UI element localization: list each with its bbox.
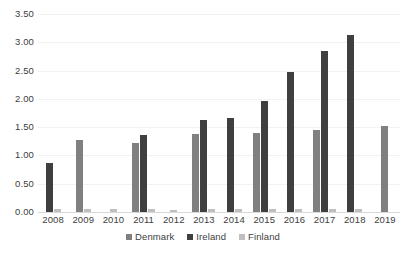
bar-group (310, 14, 340, 212)
x-axis-tick-label: 2019 (374, 213, 396, 227)
legend-label: Denmark (135, 232, 174, 242)
y-axis-tick-label: 3.00 (15, 38, 34, 48)
legend-label: Ireland (196, 232, 226, 242)
bar[interactable] (235, 209, 242, 212)
y-axis: 3.503.002.502.001.501.000.500.00 (0, 14, 34, 212)
bar[interactable] (132, 143, 139, 212)
y-axis-tick-label: 1.50 (15, 122, 34, 132)
x-axis-tick-label: 2018 (344, 213, 366, 227)
bar-group (98, 14, 128, 212)
legend-swatch-icon (187, 234, 193, 240)
bar-group (189, 14, 219, 212)
x-axis-tick-label: 2011 (133, 213, 154, 227)
legend-item-denmark[interactable]: Denmark (126, 232, 174, 242)
x-axis-tick-label: 2015 (253, 213, 275, 227)
x-axis-tick-label: 2013 (193, 213, 215, 227)
bar[interactable] (355, 209, 362, 212)
y-axis-tick-label: 0.50 (15, 179, 34, 189)
legend-item-ireland[interactable]: Ireland (187, 232, 226, 242)
legend-swatch-icon (239, 234, 245, 240)
bar[interactable] (148, 209, 155, 212)
bar-group (249, 14, 279, 212)
bar[interactable] (253, 133, 260, 212)
bar[interactable] (140, 135, 147, 213)
bar[interactable] (321, 51, 328, 212)
bar[interactable] (287, 72, 294, 212)
x-axis-tick-label: 2009 (72, 213, 94, 227)
bar-group (129, 14, 159, 212)
bar-group (340, 14, 370, 212)
bar[interactable] (84, 209, 91, 212)
bar-group (219, 14, 249, 212)
bar[interactable] (170, 210, 177, 212)
y-axis-tick-label: 0.00 (15, 207, 34, 217)
bar-group (279, 14, 309, 212)
bar[interactable] (347, 35, 354, 212)
bar[interactable] (261, 101, 268, 212)
y-axis-tick-label: 2.00 (15, 94, 34, 104)
x-axis-tick-label: 2010 (103, 213, 125, 227)
bar[interactable] (200, 120, 207, 212)
x-axis-tick-label: 2012 (163, 213, 185, 227)
y-axis-tick-label: 1.00 (15, 151, 34, 161)
bar-group (370, 14, 400, 212)
bar-group (68, 14, 98, 212)
x-axis-tick-label: 2017 (314, 213, 336, 227)
bar-group (38, 14, 68, 212)
legend-swatch-icon (126, 234, 132, 240)
bar[interactable] (313, 130, 320, 212)
bar[interactable] (54, 209, 61, 212)
legend-label: Finland (248, 232, 280, 242)
x-axis-tick-label: 2008 (42, 213, 64, 227)
bar[interactable] (329, 209, 336, 212)
y-axis-tick-label: 3.50 (15, 9, 34, 19)
x-axis-tick-label: 2014 (223, 213, 245, 227)
bar[interactable] (269, 209, 276, 212)
x-axis: 2008200920102011201220132014201520162017… (38, 213, 400, 229)
bar[interactable] (381, 126, 388, 212)
bar[interactable] (110, 209, 117, 212)
bars-layer (38, 14, 400, 212)
bar[interactable] (227, 118, 234, 212)
y-axis-tick-label: 2.50 (15, 66, 34, 76)
x-axis-tick-label: 2016 (284, 213, 306, 227)
bar-group (159, 14, 189, 212)
plot-area (38, 14, 400, 212)
bar-chart: 3.503.002.502.001.501.000.500.00 2008200… (0, 0, 406, 253)
bar[interactable] (76, 140, 83, 212)
bar[interactable] (295, 209, 302, 212)
chart-legend: DenmarkIrelandFinland (0, 232, 406, 242)
bar[interactable] (208, 209, 215, 212)
bar[interactable] (192, 134, 199, 212)
bar[interactable] (46, 163, 53, 212)
legend-item-finland[interactable]: Finland (239, 232, 280, 242)
